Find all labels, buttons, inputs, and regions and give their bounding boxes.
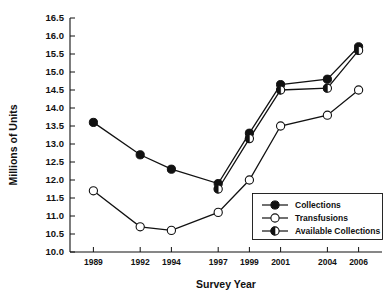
data-point-marker	[355, 46, 363, 54]
data-point-marker	[214, 208, 222, 216]
data-point-marker	[136, 223, 144, 231]
x-axis-title: Survey Year	[196, 278, 256, 290]
data-point-marker	[277, 86, 285, 94]
y-tick-label: 10.0	[46, 246, 65, 257]
x-tick-label: 1989	[84, 257, 103, 267]
line-chart-svg: Millions of Units 10.010.511.011.512.012…	[0, 0, 390, 299]
y-axis-title: Millions of Units	[7, 104, 19, 185]
y-tick-label: 16.5	[46, 12, 65, 23]
y-tick-label: 15.0	[46, 66, 65, 77]
x-axis-tick-marks	[93, 247, 358, 252]
x-tick-label: 1992	[131, 257, 150, 267]
x-axis-title-label: Survey Year	[196, 278, 256, 290]
y-tick-label: 11.5	[46, 192, 65, 203]
y-tick-label: 10.5	[46, 228, 65, 239]
data-point-marker	[355, 86, 363, 94]
legend-label: Collections	[295, 200, 341, 210]
chart-legend: CollectionsTransfusionsAvailable Collect…	[253, 194, 383, 240]
legend-marker	[271, 201, 279, 209]
x-tick-label: 2006	[349, 257, 368, 267]
y-tick-label: 14.5	[46, 84, 65, 95]
y-tick-label: 12.5	[46, 156, 65, 167]
y-tick-label: 12.0	[46, 174, 65, 185]
chart-figure: Millions of Units 10.010.511.011.512.012…	[0, 0, 390, 299]
legend-label: Transfusions	[295, 213, 348, 223]
x-tick-label: 2001	[271, 257, 290, 267]
x-axis-tick-labels: 19891992199419971999200120042006	[84, 257, 368, 267]
series-line	[93, 47, 358, 184]
data-point-marker	[277, 122, 285, 130]
x-tick-label: 1999	[240, 257, 259, 267]
y-tick-label: 13.5	[46, 120, 65, 131]
data-point-marker	[89, 118, 97, 126]
data-point-marker	[136, 151, 144, 159]
y-tick-label: 16.0	[46, 30, 65, 41]
data-point-marker	[323, 84, 331, 92]
legend-marker	[271, 214, 279, 222]
data-point-marker	[167, 165, 175, 173]
y-axis-tick-labels: 10.010.511.011.512.012.513.013.514.014.5…	[46, 12, 65, 257]
x-tick-label: 2004	[318, 257, 337, 267]
x-tick-label: 1997	[209, 257, 228, 267]
y-tick-label: 13.0	[46, 138, 65, 149]
data-point-marker	[245, 135, 253, 143]
legend-marker	[271, 227, 279, 235]
y-axis-tick-marks	[70, 18, 75, 252]
data-point-marker	[323, 75, 331, 83]
y-axis-title-label: Millions of Units	[7, 104, 19, 185]
data-point-marker	[214, 185, 222, 193]
data-point-marker	[89, 187, 97, 195]
y-tick-label: 15.5	[46, 48, 65, 59]
y-tick-label: 11.0	[46, 210, 64, 221]
x-tick-label: 1994	[162, 257, 181, 267]
legend-label: Available Collections	[295, 226, 380, 236]
series-line	[218, 50, 358, 189]
data-point-marker	[323, 111, 331, 119]
data-point-marker	[167, 226, 175, 234]
data-point-marker	[245, 176, 253, 184]
y-tick-label: 14.0	[46, 102, 65, 113]
